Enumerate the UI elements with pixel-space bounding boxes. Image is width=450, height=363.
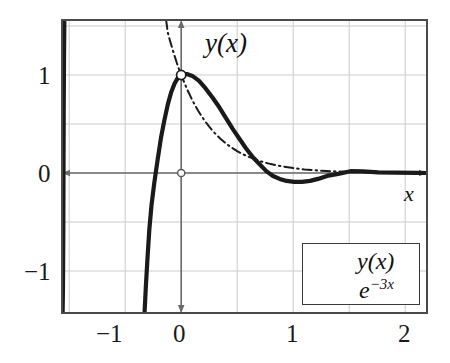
y-axis-name-label: y(x) bbox=[205, 30, 247, 57]
xtick-label-0: 0 bbox=[173, 321, 186, 346]
xtick-label-1: 1 bbox=[286, 321, 299, 346]
xtick-label-minus1: −1 bbox=[96, 321, 123, 346]
y-axis-arrow-up bbox=[178, 20, 185, 28]
ytick-label-0: 0 bbox=[38, 161, 51, 186]
legend-label-exp: e−3x bbox=[359, 277, 394, 302]
legend-label-exp-base: e bbox=[359, 277, 370, 303]
legend-entry-exp: e−3x bbox=[303, 275, 421, 305]
ytick-label-1: 1 bbox=[38, 63, 51, 88]
open-circle-at-origin bbox=[178, 169, 185, 176]
legend-label-y: y(x) bbox=[357, 249, 394, 273]
open-circle-at-0-1 bbox=[177, 70, 186, 79]
x-axis-name-label: x bbox=[404, 183, 414, 205]
figure: −1 0 1 2 1 0 −1 y(x) x y(x) e−3x bbox=[0, 0, 450, 363]
legend: y(x) e−3x bbox=[302, 243, 420, 305]
legend-entry-y: y(x) bbox=[303, 246, 421, 276]
y-axis-arrow-down bbox=[178, 305, 185, 313]
ytick-label-minus1: −1 bbox=[24, 259, 51, 284]
legend-label-exp-exponent: −3x bbox=[370, 276, 394, 292]
xtick-label-2: 2 bbox=[398, 321, 411, 346]
